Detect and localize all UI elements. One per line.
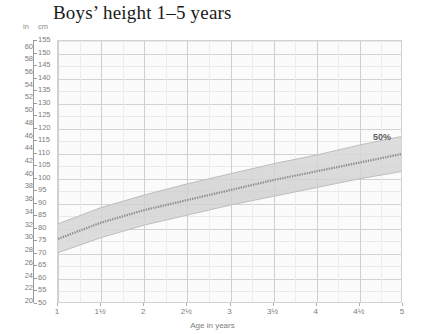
- inch-tick-label: 38: [20, 181, 33, 190]
- inch-tick-label: 50: [20, 105, 33, 114]
- cm-tick-mark: [34, 303, 37, 304]
- axis-unit-cm-label: cm: [38, 22, 48, 31]
- cm-tick-mark: [34, 128, 37, 129]
- cm-tick-mark: [34, 240, 37, 241]
- cm-tick-label: 135: [38, 85, 51, 94]
- cm-tick-mark: [34, 278, 37, 279]
- x-tick-label: 3½: [267, 307, 278, 316]
- x-tick-mark: [402, 303, 403, 306]
- cm-tick-label: 145: [38, 60, 51, 69]
- cm-tick-mark: [34, 265, 37, 266]
- cm-tick-mark: [34, 153, 37, 154]
- x-tick-label: 2: [141, 307, 145, 316]
- cm-tick-label: 150: [38, 48, 51, 57]
- inch-tick-label: 44: [20, 143, 33, 152]
- cm-tick-label: 60: [38, 273, 46, 282]
- x-tick-mark: [316, 303, 317, 306]
- percentile-band: [58, 41, 402, 303]
- cm-tick-mark: [34, 140, 37, 141]
- cm-tick-label: 155: [38, 35, 51, 44]
- cm-tick-mark: [34, 228, 37, 229]
- cm-tick-mark: [34, 190, 37, 191]
- cm-tick-label: 65: [38, 260, 46, 269]
- inch-tick-label: 46: [20, 131, 33, 140]
- cm-tick-label: 55: [38, 285, 46, 294]
- x-tick-mark: [186, 303, 187, 306]
- cm-tick-label: 80: [38, 223, 46, 232]
- inch-tick-label: 48: [20, 118, 33, 127]
- percentile-annotation: 50%: [373, 132, 391, 142]
- cm-tick-mark: [34, 103, 37, 104]
- cm-tick-label: 100: [38, 173, 51, 182]
- x-tick-label: 4: [314, 307, 318, 316]
- inch-tick-label: 30: [20, 232, 33, 241]
- x-tick-label: 2½: [181, 307, 192, 316]
- cm-tick-label: 85: [38, 210, 46, 219]
- inch-tick-label: 28: [20, 245, 33, 254]
- cm-tick-mark: [34, 40, 37, 41]
- inch-tick-label: 40: [20, 169, 33, 178]
- inch-tick-label: 34: [20, 207, 33, 216]
- cm-tick-mark: [34, 115, 37, 116]
- x-tick-label: 3: [227, 307, 231, 316]
- inch-tick-label: 58: [20, 54, 33, 63]
- inch-tick-label: 22: [20, 283, 33, 292]
- inch-tick-label: 60: [20, 42, 33, 51]
- cm-tick-label: 50: [38, 298, 46, 307]
- cm-tick-mark: [34, 53, 37, 54]
- x-tick-mark: [230, 303, 231, 306]
- x-tick-label: 1½: [95, 307, 106, 316]
- cm-tick-mark: [34, 253, 37, 254]
- cm-tick-label: 75: [38, 235, 46, 244]
- cm-tick-mark: [34, 78, 37, 79]
- inch-tick-label: 26: [20, 258, 33, 267]
- axis-unit-inches-label: in: [23, 22, 29, 31]
- inch-tick-label: 24: [20, 271, 33, 280]
- cm-tick-label: 115: [38, 135, 50, 144]
- inch-tick-label: 54: [20, 80, 33, 89]
- inch-tick-label: 20: [20, 296, 33, 305]
- inch-tick-label: 56: [20, 67, 33, 76]
- cm-tick-label: 110: [38, 148, 50, 157]
- inch-tick-label: 42: [20, 156, 33, 165]
- x-tick-mark: [359, 303, 360, 306]
- page-title: Boys’ height 1–5 years: [53, 2, 232, 24]
- x-tick-mark: [100, 303, 101, 306]
- growth-chart: Boys’ height 1–5 years in cm 50556065707…: [0, 0, 425, 334]
- cm-tick-label: 125: [38, 110, 51, 119]
- y-axis-line: [33, 40, 34, 303]
- x-tick-mark: [57, 303, 58, 306]
- cm-tick-label: 105: [38, 160, 51, 169]
- inch-tick-label: 52: [20, 92, 33, 101]
- cm-tick-mark: [34, 203, 37, 204]
- cm-tick-mark: [34, 290, 37, 291]
- cm-tick-label: 70: [38, 248, 46, 257]
- inch-tick-label: 36: [20, 194, 33, 203]
- cm-tick-label: 90: [38, 198, 46, 207]
- x-tick-label: 1: [55, 307, 59, 316]
- cm-tick-label: 120: [38, 123, 51, 132]
- x-tick-label: 4½: [353, 307, 364, 316]
- x-tick-label: 5: [400, 307, 404, 316]
- cm-tick-mark: [34, 90, 37, 91]
- cm-tick-label: 140: [38, 73, 51, 82]
- x-axis-title: Age in years: [0, 321, 425, 330]
- cm-tick-mark: [34, 165, 37, 166]
- cm-tick-mark: [34, 65, 37, 66]
- x-tick-mark: [273, 303, 274, 306]
- plot-area: [57, 40, 402, 303]
- cm-tick-label: 95: [38, 185, 46, 194]
- x-tick-mark: [143, 303, 144, 306]
- cm-tick-mark: [34, 215, 37, 216]
- cm-tick-mark: [34, 178, 37, 179]
- cm-tick-label: 130: [38, 98, 51, 107]
- inch-tick-label: 32: [20, 220, 33, 229]
